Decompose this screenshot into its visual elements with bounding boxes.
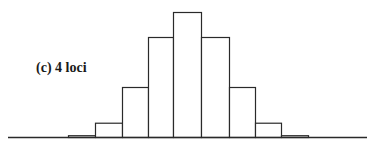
histogram-bars: [69, 13, 309, 138]
histogram-bar-2: [123, 88, 149, 138]
histogram-bar-3: [149, 38, 174, 138]
histogram-bar-5: [202, 38, 230, 138]
histogram-bar-4: [174, 13, 202, 138]
histogram-bar-7: [256, 123, 282, 137]
histogram-plot: [0, 0, 381, 153]
histogram-bar-1: [96, 123, 123, 137]
histogram-bar-6: [230, 88, 256, 138]
